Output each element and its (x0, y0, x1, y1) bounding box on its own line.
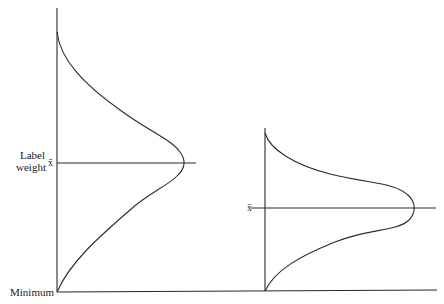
baseline (57, 290, 437, 292)
y-axis-label-line1: Label (20, 149, 45, 161)
minimum-label: Minimum (10, 286, 54, 298)
left-distribution-curve (57, 32, 184, 292)
left-mean-label: x̄ (48, 157, 53, 168)
distribution-diagram: Label weight x̄ x̄ Minimum (0, 0, 444, 304)
y-axis-label-line2: weight (16, 161, 46, 173)
right-distribution-curve (265, 133, 414, 291)
right-mean-label: x̄ (247, 202, 252, 213)
